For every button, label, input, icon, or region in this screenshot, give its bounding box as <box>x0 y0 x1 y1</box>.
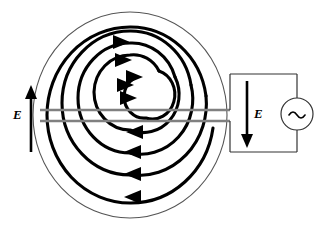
spiral-coil <box>47 27 213 203</box>
arrowhead-top-outer <box>113 35 130 49</box>
field-label-right: E <box>254 107 263 120</box>
arrowhead-bottom-third <box>124 167 141 181</box>
diagram-canvas <box>0 0 327 232</box>
ac-source-symbol <box>281 98 313 130</box>
field-arrow-right-head-icon <box>241 134 253 148</box>
arrowhead-top-inner <box>120 91 137 105</box>
arrowheads-top <box>113 35 143 105</box>
physics-diagram-figure: E E <box>0 0 327 232</box>
spiral-turn-1 <box>47 27 213 203</box>
arrowhead-bottom-inner <box>124 145 141 159</box>
field-label-left: E <box>13 108 22 121</box>
arrowhead-top-innermost <box>126 70 143 84</box>
field-arrow-left <box>25 85 37 152</box>
field-arrow-right <box>241 81 253 148</box>
arrowheads-bottom <box>124 125 143 204</box>
arrowhead-bottom-innermost <box>126 125 143 139</box>
